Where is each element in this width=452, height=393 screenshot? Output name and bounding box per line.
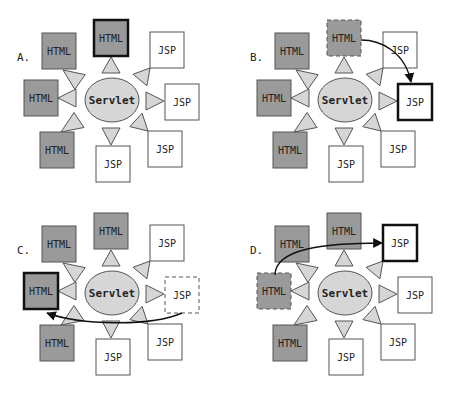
- node-label: HTML: [280, 46, 304, 57]
- servlet-label: Servlet: [89, 94, 135, 107]
- node-label: JSP: [156, 337, 174, 348]
- panel-label: C.: [17, 244, 30, 257]
- panel-a: A.ServletHTMLHTMLJSPHTMLJSPHTMLJSPJSP: [17, 20, 199, 182]
- node-label: JSP: [158, 45, 176, 56]
- node-label: JSP: [389, 144, 407, 155]
- node-label: JSP: [104, 352, 122, 363]
- node-label: HTML: [45, 338, 69, 349]
- servlet-label: Servlet: [322, 94, 368, 107]
- node-label: JSP: [173, 290, 191, 301]
- connector-triangle-icon: [133, 261, 150, 279]
- connector-triangle-icon: [296, 263, 318, 282]
- connector-triangle-icon: [133, 68, 150, 86]
- node-label: JSP: [104, 159, 122, 170]
- node-label: HTML: [47, 46, 71, 57]
- node-label: JSP: [391, 45, 409, 56]
- connector-triangle-icon: [58, 282, 76, 300]
- connector-triangle-icon: [363, 113, 381, 131]
- node-label: JSP: [391, 238, 409, 249]
- node-label: HTML: [332, 226, 356, 237]
- node-label: HTML: [280, 239, 304, 250]
- connector-triangle-icon: [366, 261, 383, 279]
- connector-triangle-icon: [102, 250, 120, 266]
- connector-triangle-icon: [294, 113, 317, 132]
- connector-triangle-icon: [146, 285, 164, 303]
- node-label: HTML: [29, 286, 53, 297]
- node-label: JSP: [173, 97, 191, 108]
- node-label: HTML: [278, 338, 302, 349]
- connector-triangle-icon: [379, 285, 397, 303]
- connector-triangle-icon: [366, 68, 383, 86]
- connector-triangle-icon: [102, 128, 120, 145]
- connector-triangle-icon: [335, 57, 353, 73]
- servlet-jsp-diagram: A.ServletHTMLHTMLJSPHTMLJSPHTMLJSPJSP B.…: [0, 0, 452, 393]
- node-label: JSP: [156, 144, 174, 155]
- connector-triangle-icon: [379, 92, 397, 110]
- node-label: HTML: [278, 145, 302, 156]
- connector-triangle-icon: [294, 306, 317, 325]
- node-label: JSP: [337, 352, 355, 363]
- connector-triangle-icon: [61, 306, 84, 325]
- node-label: HTML: [262, 286, 286, 297]
- panel-label: D.: [250, 244, 263, 257]
- node-label: JSP: [158, 238, 176, 249]
- node-label: HTML: [99, 33, 123, 44]
- node-label: JSP: [389, 337, 407, 348]
- node-label: HTML: [29, 93, 53, 104]
- connector-triangle-icon: [102, 321, 120, 338]
- panel-d: D.ServletHTMLHTMLJSPHTMLJSPHTMLJSPJSP: [250, 213, 432, 375]
- connector-triangle-icon: [291, 282, 309, 300]
- connector-triangle-icon: [335, 321, 353, 338]
- servlet-label: Servlet: [89, 287, 135, 300]
- servlet-label: Servlet: [322, 287, 368, 300]
- panel-b: B.ServletHTMLHTMLJSPHTMLJSPHTMLJSPJSP: [250, 20, 432, 182]
- node-label: JSP: [406, 97, 424, 108]
- connector-triangle-icon: [63, 263, 85, 282]
- connector-triangle-icon: [291, 89, 309, 107]
- connector-triangle-icon: [335, 128, 353, 145]
- node-label: JSP: [337, 159, 355, 170]
- node-label: HTML: [47, 239, 71, 250]
- connector-triangle-icon: [63, 70, 85, 89]
- connector-triangle-icon: [363, 306, 381, 324]
- panel-label: B.: [250, 51, 263, 64]
- node-label: HTML: [99, 226, 123, 237]
- panel-c: C.ServletHTMLHTMLJSPHTMLJSPHTMLJSPJSP: [17, 213, 199, 375]
- node-label: HTML: [262, 93, 286, 104]
- node-label: JSP: [406, 290, 424, 301]
- connector-triangle-icon: [58, 89, 76, 107]
- node-label: HTML: [332, 33, 356, 44]
- node-label: HTML: [45, 145, 69, 156]
- connector-triangle-icon: [296, 70, 318, 89]
- panel-label: A.: [17, 51, 30, 64]
- connector-triangle-icon: [130, 113, 148, 131]
- connector-triangle-icon: [335, 250, 353, 266]
- connector-triangle-icon: [61, 113, 84, 132]
- connector-triangle-icon: [146, 92, 164, 110]
- connector-triangle-icon: [102, 57, 120, 73]
